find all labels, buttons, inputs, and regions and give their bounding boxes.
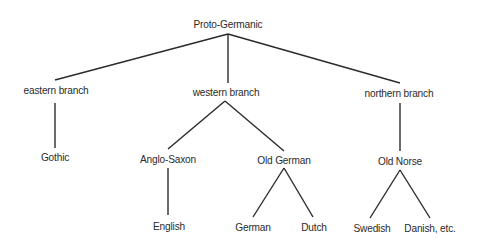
node-old-german: Old German [254, 154, 315, 166]
node-northern-branch: northern branch [360, 87, 438, 99]
language-family-tree: Proto-Germanic eastern branch western br… [0, 0, 480, 247]
node-swedish: Swedish [351, 222, 393, 234]
edge-root-northern [228, 34, 400, 83]
node-dutch: Dutch [299, 221, 328, 233]
edge-old_german-german [253, 168, 284, 217]
node-gothic: Gothic [39, 151, 71, 163]
node-old-norse: Old Norse [375, 155, 425, 167]
node-english: English [151, 220, 187, 232]
edge-old_german-dutch [284, 168, 313, 217]
edge-old_norse-danish [400, 170, 430, 218]
node-danish-etc: Danish, etc. [401, 222, 459, 234]
edge-western-old_german [225, 101, 284, 151]
node-eastern-branch: eastern branch [19, 84, 93, 96]
node-anglo-saxon: Anglo-Saxon [136, 153, 200, 165]
edge-root-eastern [55, 34, 228, 80]
node-western-branch: western branch [188, 86, 264, 98]
edge-western-anglo_saxon [168, 101, 225, 149]
edge-old_norse-swedish [370, 170, 400, 218]
node-german: German [233, 221, 273, 233]
node-proto-germanic: Proto-Germanic [189, 18, 267, 30]
tree-edges [0, 0, 480, 247]
